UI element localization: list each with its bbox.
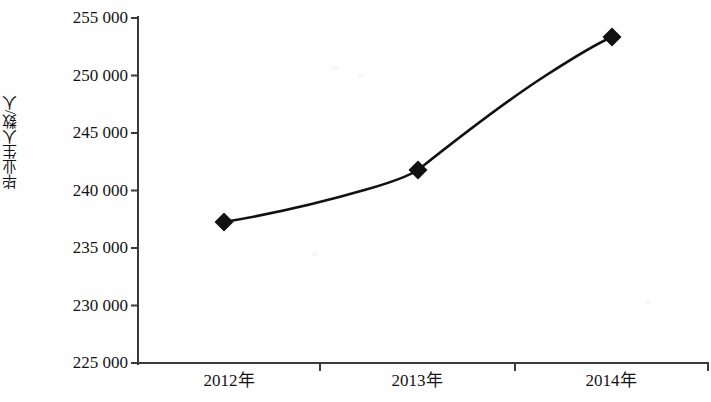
line-chart: 毕业生人数/人 255 000 250 000 245 000 240 000 … <box>0 0 711 402</box>
y-axis-label-225000: 225 000 <box>32 354 128 371</box>
x-axis-label-2013: 2013年 <box>357 372 477 390</box>
chart-canvas <box>0 0 711 402</box>
y-axis-title: 毕业生人数/人 <box>2 95 30 189</box>
x-axis-label-2012: 2012年 <box>169 372 289 390</box>
y-axis-label-245000: 245 000 <box>32 124 128 141</box>
y-axis-label-255000: 255 000 <box>32 9 128 26</box>
y-axis-label-250000: 250 000 <box>32 67 128 84</box>
y-axis-label-240000: 240 000 <box>32 182 128 199</box>
y-axis-label-235000: 235 000 <box>32 239 128 256</box>
x-axis-label-2014: 2014年 <box>551 372 671 390</box>
y-axis-label-230000: 230 000 <box>32 297 128 314</box>
plot-background <box>0 0 711 402</box>
